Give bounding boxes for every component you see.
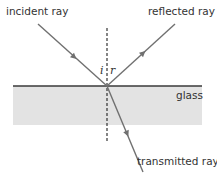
glass-label: glass xyxy=(176,89,203,101)
ray-diagram: incident ray reflected ray transmitted r… xyxy=(0,0,217,187)
reflected-ray-label: reflected ray xyxy=(148,5,215,17)
transmitted-arrow-icon xyxy=(123,130,131,138)
angle-i-label: i xyxy=(100,64,104,77)
transmitted-ray-label: transmitted ray xyxy=(137,155,217,167)
angle-r-label: r xyxy=(110,64,116,77)
incident-ray-label: incident ray xyxy=(6,5,68,17)
